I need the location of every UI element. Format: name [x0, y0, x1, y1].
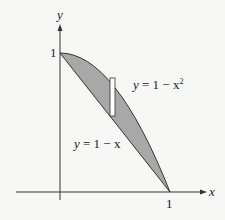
line-label: y = 1 − x [72, 136, 121, 151]
x-tick-label: 1 [166, 196, 173, 211]
representative-strip [110, 78, 115, 116]
parabola-label: y = 1 − x2 [131, 77, 183, 92]
line-curve [60, 53, 170, 192]
area-diagram: x y 1 1 y = 1 − x2 y = 1 − x [0, 0, 225, 220]
x-axis-label: x [208, 184, 215, 199]
y-tick-label: 1 [50, 45, 57, 60]
y-axis-label: y [55, 7, 63, 22]
y-axis-arrow-icon [58, 24, 63, 31]
x-axis-arrow-icon [200, 190, 207, 195]
